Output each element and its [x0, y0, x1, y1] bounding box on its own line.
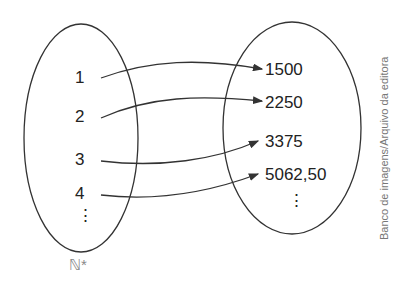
domain-element-3: 3	[75, 151, 84, 168]
domain-element-1: 1	[75, 69, 84, 86]
domain-element-4: 4	[75, 185, 84, 202]
domain-ellipsis: ⋮	[77, 207, 94, 224]
codomain-element-1500: 1500	[265, 61, 303, 78]
arrow-2	[101, 98, 262, 118]
codomain-ellipsis: ⋮	[288, 192, 305, 209]
domain-element-2: 2	[75, 108, 84, 125]
image-credit: Banco de imagens/Arquivo da editora	[378, 57, 390, 240]
mapping-diagram	[0, 0, 405, 288]
codomain-element-3375: 3375	[265, 133, 303, 150]
codomain-element-2250: 2250	[265, 94, 303, 111]
set-label-naturals: ℕ*	[69, 256, 87, 274]
arrow-3	[101, 141, 258, 164]
codomain-element-5062: 5062,50	[265, 166, 326, 183]
